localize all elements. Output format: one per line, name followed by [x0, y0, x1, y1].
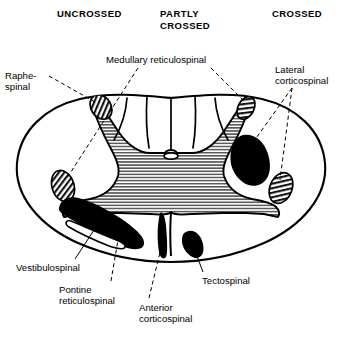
figure-canvas: UNCROSSED PARTLY CROSSED CROSSED Raphe- … [0, 0, 342, 337]
label-pontine-reticulospinal: Pontine reticulospinal [59, 284, 115, 306]
label-lateral-corticospinal: Lateral corticospinal [275, 64, 328, 86]
header-crossed: CROSSED [272, 8, 322, 20]
central-canal [164, 153, 178, 159]
leader-raphespinal [49, 76, 95, 102]
header-uncrossed: UNCROSSED [57, 8, 122, 20]
label-raphespinal: Raphe- spinal [5, 70, 36, 92]
label-tectospinal: Tectospinal [202, 275, 250, 286]
anterior-median-fissure [170, 212, 171, 256]
spinal-cord-diagram [0, 0, 342, 337]
label-anterior-corticospinal: Anterior corticospinal [139, 302, 192, 324]
label-medullary-reticulospinal: Medullary reticulospinal [106, 54, 206, 65]
header-partly-crossed: PARTLY CROSSED [160, 8, 210, 31]
label-vestibulospinal: Vestibulospinal [16, 262, 80, 273]
